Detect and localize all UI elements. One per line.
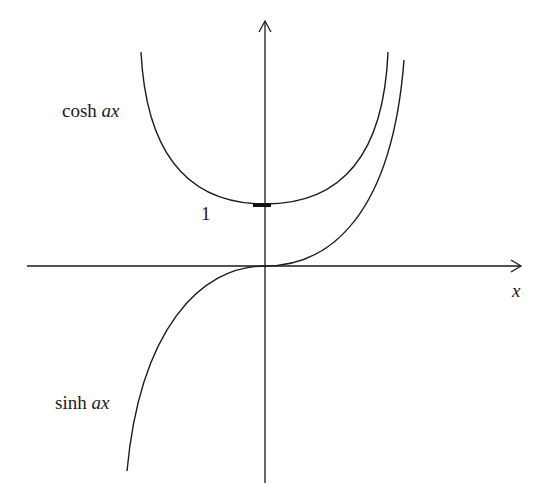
x-axis-label: x [512, 281, 520, 300]
sinh-label: sinh ax [55, 393, 109, 412]
cosh-label-fn: cosh [62, 100, 97, 121]
sinh-label-fn: sinh [55, 392, 87, 413]
cosh-label-var: ax [102, 100, 120, 121]
y-tick-label: 1 [201, 204, 211, 223]
sinh-label-var: ax [91, 392, 109, 413]
hyperbolic-functions-plot [0, 0, 549, 500]
cosh-label: cosh ax [62, 101, 120, 120]
